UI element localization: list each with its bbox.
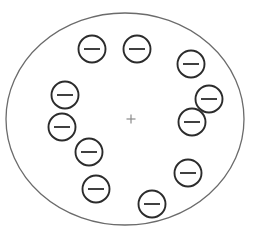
minus-circle-5[interactable] xyxy=(179,109,206,136)
minus-circle-8[interactable] xyxy=(83,176,110,203)
minus-circle-6[interactable] xyxy=(175,160,202,187)
minus-circle-4[interactable] xyxy=(196,86,223,113)
minus-circle-3[interactable] xyxy=(178,51,205,78)
minus-circle-11[interactable] xyxy=(52,82,79,109)
stimulus-canvas xyxy=(0,0,257,236)
minus-circle-10[interactable] xyxy=(49,114,76,141)
minus-circle-9[interactable] xyxy=(76,139,103,166)
scene-svg xyxy=(0,0,257,236)
minus-circle-2[interactable] xyxy=(124,36,151,63)
canvas-background xyxy=(0,0,257,236)
minus-circle-1[interactable] xyxy=(79,36,106,63)
minus-circle-7[interactable] xyxy=(139,191,166,218)
